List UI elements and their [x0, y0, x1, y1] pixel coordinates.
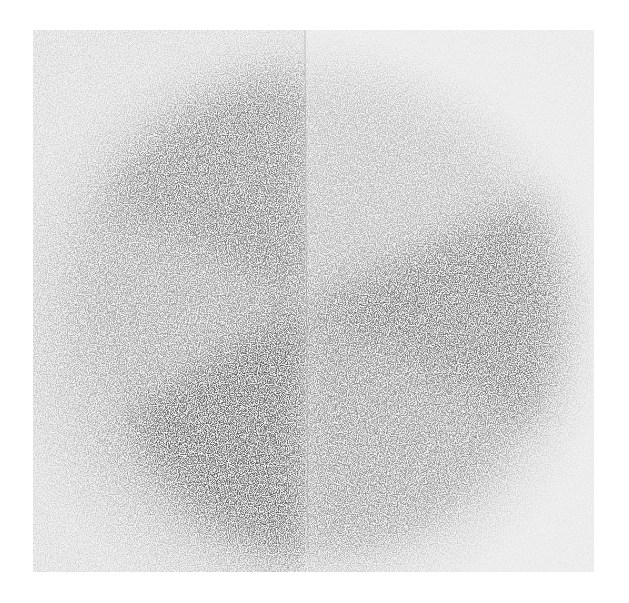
artwork-paper: [33, 30, 594, 572]
left-half: [33, 30, 305, 572]
right-half: [305, 30, 594, 572]
spray-composition: [33, 30, 594, 572]
